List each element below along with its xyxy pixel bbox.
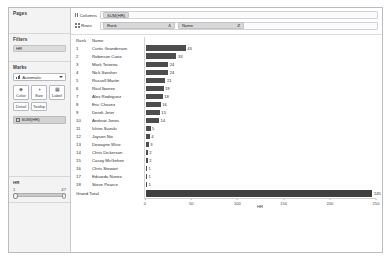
filter-slider-max-label: 47 bbox=[61, 187, 66, 192]
label-pill-icon bbox=[16, 118, 20, 122]
column-header-rank[interactable]: Rank bbox=[75, 38, 92, 43]
table-row[interactable]: 5Russell Martin21 bbox=[75, 76, 376, 84]
row-bar[interactable] bbox=[146, 102, 161, 107]
row-bar[interactable] bbox=[146, 182, 147, 187]
row-bar[interactable] bbox=[146, 150, 148, 155]
row-bar[interactable] bbox=[146, 118, 159, 123]
table-row[interactable]: 17Eduardo Nunez1 bbox=[75, 173, 376, 181]
marks-button-label: Tooltip bbox=[33, 104, 45, 109]
table-row[interactable]: 14Chris Dickerson2 bbox=[75, 149, 376, 157]
table-row[interactable]: 15Casey McGehee2 bbox=[75, 157, 376, 165]
row-bar-cell: 16 bbox=[144, 100, 376, 108]
row-bar[interactable] bbox=[146, 94, 163, 99]
row-bar-value: 2 bbox=[149, 158, 151, 163]
row-rank: 5 bbox=[75, 78, 92, 83]
row-name: Chris Stewart bbox=[92, 166, 144, 171]
rows-pill-rank[interactable]: Rank Δ bbox=[103, 22, 175, 28]
marks-button-label[interactable]: ▦ Label bbox=[49, 85, 65, 100]
row-bar[interactable] bbox=[146, 45, 186, 50]
table-rows-container: 1Curtis Granderson432Robinson Cano333Mar… bbox=[75, 44, 376, 189]
chevron-down-icon[interactable] bbox=[59, 76, 63, 78]
table-row[interactable]: 13Dewayne Wise3 bbox=[75, 141, 376, 149]
pages-card[interactable]: Pages bbox=[9, 8, 70, 34]
marks-button-color[interactable]: ◈ Color bbox=[13, 85, 29, 100]
table-row[interactable]: 9Derek Jeter15 bbox=[75, 108, 376, 116]
row-bar-value: 33 bbox=[178, 54, 183, 59]
row-bar[interactable] bbox=[146, 110, 160, 115]
row-name: Mark Teixeira bbox=[92, 62, 144, 67]
sort-icon[interactable]: ⇵ bbox=[237, 23, 240, 28]
table-row[interactable]: 8Eric Chavez16 bbox=[75, 100, 376, 108]
row-rank: 10 bbox=[75, 118, 92, 123]
table-row[interactable]: 11Ichiro Suzuki5 bbox=[75, 124, 376, 132]
sort-ascending-icon[interactable]: Δ bbox=[168, 23, 171, 28]
row-bar-value: 1 bbox=[148, 166, 150, 171]
slider-handle-max[interactable] bbox=[62, 193, 67, 199]
table-header-row: Rank Name bbox=[75, 37, 376, 44]
marks-pill-label: SUM(HR) bbox=[22, 117, 40, 122]
row-name: Nick Swisher bbox=[92, 70, 144, 75]
table-row[interactable]: 4Nick Swisher24 bbox=[75, 68, 376, 76]
x-axis-tick-mark bbox=[376, 199, 377, 200]
rows-pill-label: Rank bbox=[107, 23, 117, 28]
rows-pill-name[interactable]: Name ⇵ bbox=[178, 22, 244, 28]
table-row[interactable]: 18Steve Pearce1 bbox=[75, 181, 376, 189]
row-bar-value: 5 bbox=[152, 126, 154, 131]
chart-view: Rank Name 1Curtis Granderson432Robinson … bbox=[71, 35, 382, 252]
mark-type-dropdown[interactable]: Automatic bbox=[13, 73, 66, 81]
marks-pill-sum-hr[interactable]: SUM(HR) bbox=[13, 116, 66, 124]
bar-chart-icon bbox=[16, 75, 20, 80]
grand-total-bar[interactable] bbox=[146, 190, 372, 196]
filters-card[interactable]: Filters HR bbox=[9, 34, 70, 62]
filter-pill-hr[interactable]: HR bbox=[13, 45, 66, 52]
row-rank: 9 bbox=[75, 110, 92, 115]
row-bar-value: 1 bbox=[148, 174, 150, 179]
row-bar[interactable] bbox=[146, 134, 150, 139]
table-row[interactable]: 10Andruw Jones14 bbox=[75, 116, 376, 124]
row-bar[interactable] bbox=[146, 53, 176, 58]
marks-button-label: Size bbox=[35, 93, 43, 98]
row-bar[interactable] bbox=[146, 62, 168, 67]
rows-shelf-label: Rows bbox=[75, 23, 97, 28]
row-bar-value: 24 bbox=[170, 70, 175, 75]
marks-button-tooltip[interactable]: Tooltip bbox=[31, 102, 47, 111]
grand-total-label: Grand Total bbox=[75, 191, 144, 196]
table-row[interactable]: 16Chris Stewart1 bbox=[75, 165, 376, 173]
row-bar-value: 18 bbox=[164, 94, 169, 99]
row-bar[interactable] bbox=[146, 78, 165, 83]
columns-shelf-dropzone[interactable]: SUM(HR) bbox=[100, 11, 378, 19]
table-row[interactable]: 12Jayson Nix4 bbox=[75, 133, 376, 141]
row-name: Steve Pearce bbox=[92, 182, 144, 187]
row-bar[interactable] bbox=[146, 166, 147, 171]
filter-slider-min-label: 1 bbox=[13, 187, 15, 192]
row-bar[interactable] bbox=[146, 174, 147, 179]
row-bar[interactable] bbox=[146, 86, 164, 91]
table-row[interactable]: 7Alex Rodriguez18 bbox=[75, 92, 376, 100]
row-name: Casey McGehee bbox=[92, 158, 144, 163]
row-rank: 14 bbox=[75, 150, 92, 155]
row-bar-cell: 5 bbox=[144, 124, 376, 132]
row-rank: 1 bbox=[75, 46, 92, 51]
rows-shelf-dropzone[interactable]: Rank Δ Name ⇵ bbox=[100, 22, 378, 30]
table-row[interactable]: 2Robinson Cano33 bbox=[75, 52, 376, 60]
table-row[interactable]: 6Raul Ibanez19 bbox=[75, 84, 376, 92]
table-row[interactable]: 1Curtis Granderson43 bbox=[75, 44, 376, 52]
row-bar-cell: 1 bbox=[144, 181, 376, 189]
row-name: Derek Jeter bbox=[92, 110, 144, 115]
row-bar[interactable] bbox=[146, 70, 168, 75]
table-row[interactable]: 3Mark Teixeira24 bbox=[75, 60, 376, 68]
row-rank: 6 bbox=[75, 86, 92, 91]
slider-handle-min[interactable] bbox=[13, 193, 18, 199]
columns-pill-sum-hr[interactable]: SUM(HR) bbox=[103, 12, 129, 18]
row-rank: 15 bbox=[75, 158, 92, 163]
row-bar[interactable] bbox=[146, 142, 149, 147]
row-bar[interactable] bbox=[146, 126, 151, 131]
columns-pill-label: SUM(HR) bbox=[107, 13, 125, 18]
filter-slider-track[interactable] bbox=[13, 193, 66, 197]
marks-button-size[interactable]: ◑ Size bbox=[31, 85, 47, 100]
left-pane-filler bbox=[9, 203, 70, 252]
row-rank: 18 bbox=[75, 182, 92, 187]
row-bar[interactable] bbox=[146, 158, 148, 163]
marks-button-detail[interactable]: Detail bbox=[13, 102, 29, 111]
column-header-name[interactable]: Name bbox=[92, 38, 144, 43]
